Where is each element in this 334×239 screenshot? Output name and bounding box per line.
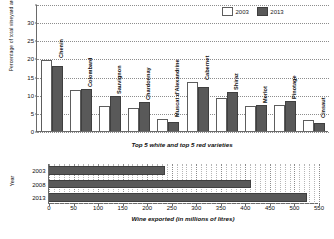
bar-group-shiraz: Shiraz xyxy=(216,92,238,131)
bar-group-cabernet: Cabernet xyxy=(187,82,209,131)
x-tick-label-500: 500 xyxy=(289,205,299,211)
bar-group-cinsaut: Cinsaut xyxy=(303,120,325,131)
bar-2013-muscat-d-alexandrine xyxy=(168,122,179,131)
x-tick-label-350: 350 xyxy=(216,205,226,211)
gridline-0 xyxy=(37,132,329,133)
y-tickmark-30 xyxy=(35,23,38,24)
vgridline-550 xyxy=(319,164,320,204)
export-bar-2003: 2003 xyxy=(49,166,165,175)
y-tickmark-15 xyxy=(35,77,38,78)
y-tickmark-25 xyxy=(35,41,38,42)
y-tick-label-15: 15 xyxy=(27,75,34,81)
y-tick-label-10: 10 xyxy=(27,93,34,99)
bar-group-colombard: Colombard xyxy=(70,89,92,131)
wine-statistics-figure: Percentage of total vineyard area 2003 2… xyxy=(0,0,334,239)
bar-2013-sauvignon xyxy=(110,96,121,131)
bar-group-chenin: Chenin xyxy=(41,60,63,131)
bar-2003-merlot xyxy=(245,106,256,131)
bar-2003-sauvignon xyxy=(99,106,110,131)
category-label-merlot: Merlot xyxy=(262,86,268,103)
y-tick-label-0: 0 xyxy=(31,129,34,135)
top-chart-y-axis-label: Percentage of total vineyard area xyxy=(8,0,14,88)
category-label-shiraz: Shiraz xyxy=(233,73,239,90)
y-tick-label-25: 25 xyxy=(27,38,34,44)
x-tick-label-250: 250 xyxy=(167,205,177,211)
gridline-35 xyxy=(37,5,329,6)
y-tickmark-5 xyxy=(35,113,38,114)
x-tick-label-550: 550 xyxy=(314,205,324,211)
y-tick-label-20: 20 xyxy=(27,56,34,62)
x-tick-label-150: 150 xyxy=(118,205,128,211)
year-label-2008: 2008 xyxy=(32,181,45,187)
bar-2013-pinotage xyxy=(285,101,296,131)
year-label-2003: 2003 xyxy=(32,168,45,174)
wine-export-bar-chart: Year 05010015020025030035040045050055020… xyxy=(0,160,334,239)
bar-2003-chenin xyxy=(41,60,52,131)
bar-2013-chardonnay xyxy=(139,102,150,131)
x-tick-label-450: 450 xyxy=(265,205,275,211)
top-chart-subtitle: Top 5 white and top 5 red varieties xyxy=(36,141,328,148)
category-label-sauvignon: Sauvignon xyxy=(116,66,122,95)
y-tick-label-30: 30 xyxy=(27,20,34,26)
y-tick-label-5: 5 xyxy=(31,111,34,117)
bar-2003-pinotage xyxy=(274,105,285,131)
bar-2013-shiraz xyxy=(227,92,238,131)
x-tick-label-300: 300 xyxy=(191,205,201,211)
bar-2003-cabernet xyxy=(187,82,198,131)
bar-2013-cinsaut xyxy=(314,123,325,131)
top-chart-plot-area: 051015202530CheninColombardSauvignonChar… xyxy=(36,5,328,132)
y-tickmark-10 xyxy=(35,95,38,96)
year-label-2013: 2013 xyxy=(32,195,45,201)
category-label-muscat-d-alexandrine: Muscat d'Alexandrine xyxy=(174,60,180,118)
gridline-30 xyxy=(37,23,329,24)
bar-2003-shiraz xyxy=(216,98,227,131)
x-tick-label-200: 200 xyxy=(142,205,152,211)
category-label-colombard: Colombard xyxy=(87,57,93,87)
category-label-chenin: Chenin xyxy=(58,39,64,58)
category-label-pinotage: Pinotage xyxy=(291,75,297,99)
gridline-25 xyxy=(37,41,329,42)
bar-group-pinotage: Pinotage xyxy=(274,101,296,131)
bar-2003-chardonnay xyxy=(128,108,139,131)
vgridline-530 xyxy=(309,164,310,204)
export-bar-2008: 2008 xyxy=(49,180,251,189)
export-bar-2013: 2013 xyxy=(49,193,307,202)
gridline-15 xyxy=(37,78,329,79)
bar-2013-colombard xyxy=(81,89,92,131)
category-label-cabernet: Cabernet xyxy=(204,56,210,80)
bar-2003-cinsaut xyxy=(303,120,314,131)
gridline-20 xyxy=(37,59,329,60)
x-tick-label-400: 400 xyxy=(240,205,250,211)
y-tickmark-35 xyxy=(35,5,38,6)
bottom-chart-x-axis-label: Wine exported (in millions of litres) xyxy=(48,215,318,222)
x-tick-label-0: 0 xyxy=(47,205,50,211)
bar-group-merlot: Merlot xyxy=(245,105,267,131)
bar-2013-chenin xyxy=(52,66,63,131)
bottom-chart-plot-area: 0501001502002503003504004505005502003200… xyxy=(48,164,318,204)
bar-2003-muscat-d-alexandrine xyxy=(157,119,168,131)
bar-2003-colombard xyxy=(70,90,81,131)
x-tick-label-100: 100 xyxy=(93,205,103,211)
x-tick-label-50: 50 xyxy=(70,205,77,211)
category-label-chardonnay: Chardonnay xyxy=(145,67,151,100)
category-label-cinsaut: Cinsaut xyxy=(320,97,326,118)
vgridline-540 xyxy=(314,164,315,204)
y-tickmark-0 xyxy=(35,132,38,133)
bar-group-muscat-d-alexandrine: Muscat d'Alexandrine xyxy=(157,119,179,131)
y-tickmark-20 xyxy=(35,59,38,60)
vineyard-area-bar-chart: Percentage of total vineyard area 2003 2… xyxy=(0,0,334,152)
bar-2013-merlot xyxy=(256,105,267,131)
bottom-chart-y-axis-label: Year xyxy=(9,161,15,201)
bar-2013-cabernet xyxy=(198,87,209,131)
bar-group-chardonnay: Chardonnay xyxy=(128,102,150,131)
bar-group-sauvignon: Sauvignon xyxy=(99,96,121,131)
